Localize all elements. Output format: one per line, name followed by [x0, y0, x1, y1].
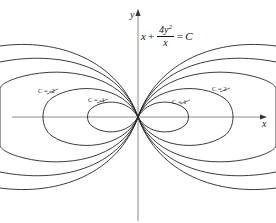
plot-canvas	[0, 0, 276, 223]
curve-c-4-lower	[138, 117, 276, 176]
equation-fraction: 4y2 x	[157, 24, 174, 48]
y-axis-label: y	[130, 10, 134, 20]
curve-c-5	[138, 44, 276, 117]
equation-fraction-denominator: x	[161, 37, 169, 48]
curve-label-c-minus-2: C = -2	[38, 88, 55, 95]
equation-plus-sign: +	[148, 31, 154, 42]
curve-label-c-1: C = 1	[172, 99, 187, 106]
curve-label-c-minus-1: C = -1	[88, 97, 105, 104]
equation-equals-sign: =	[177, 31, 183, 42]
curve-c-4	[138, 58, 276, 117]
curve-c-minus-5	[0, 44, 138, 117]
x-axis-label: x	[262, 119, 266, 129]
equation-annotation: x + 4y2 x = C	[140, 24, 194, 48]
curve-label-c-2: C = 2	[212, 86, 227, 93]
curve-c-minus-5-lower	[0, 117, 138, 190]
curve-c-minus-4-lower	[0, 117, 138, 176]
curve-family-figure: y x x + 4y2 x = C C = -2 C = -1 C = 1 C …	[0, 0, 276, 223]
equation-rhs-constant: C	[185, 31, 192, 42]
equation-fraction-numerator: 4y2	[157, 24, 174, 36]
equation-lhs-variable: x	[141, 31, 146, 42]
curve-c-5-lower	[138, 117, 276, 190]
curve-c-minus-4	[0, 58, 138, 117]
